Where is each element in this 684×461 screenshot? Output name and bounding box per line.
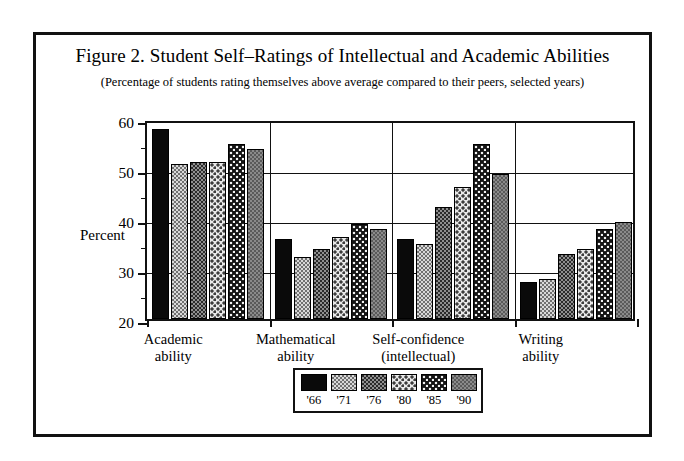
bar — [615, 222, 632, 320]
bar-group — [520, 123, 632, 319]
legend-item[interactable]: '85 — [421, 374, 447, 408]
bar — [294, 257, 311, 320]
y-axis-tick — [138, 123, 147, 125]
gridline-vertical — [392, 123, 393, 319]
bar — [171, 164, 188, 319]
y-axis-tick — [138, 223, 147, 225]
y-axis-minor-tick — [141, 198, 147, 199]
bar — [247, 149, 264, 319]
y-axis-minor-tick — [141, 148, 147, 149]
bar — [558, 254, 575, 319]
legend-label: '90 — [451, 393, 477, 408]
legend-swatch — [331, 374, 357, 391]
legend-label: '66 — [301, 393, 327, 408]
y-axis-tick — [138, 323, 147, 325]
figure-frame: Figure 2. Student Self–Ratings of Intell… — [33, 32, 652, 437]
y-axis-tick-label: 40 — [119, 214, 135, 232]
gridline-vertical — [515, 123, 516, 319]
legend-item[interactable]: '80 — [391, 374, 417, 408]
bar — [370, 229, 387, 319]
legend-swatch — [451, 374, 477, 391]
legend-item[interactable]: '76 — [361, 374, 387, 408]
bar — [313, 249, 330, 319]
legend-swatch — [421, 374, 447, 391]
legend-item[interactable]: '90 — [451, 374, 477, 408]
figure-subtitle: (Percentage of students rating themselve… — [36, 75, 649, 90]
legend-label: '85 — [421, 393, 447, 408]
bar — [228, 144, 245, 319]
x-axis-category-line: Writing — [466, 331, 616, 348]
bar — [332, 237, 349, 320]
legend-swatch — [361, 374, 387, 391]
x-axis-tick — [147, 319, 149, 327]
bar — [520, 282, 537, 320]
legend-item[interactable]: '66 — [301, 374, 327, 408]
x-axis-category-line: ability — [466, 348, 616, 365]
bar — [275, 239, 292, 319]
y-axis-minor-tick — [141, 298, 147, 299]
legend-label: '76 — [361, 393, 387, 408]
y-axis-tick-label: 30 — [119, 264, 135, 282]
bar — [492, 174, 509, 319]
bar — [596, 229, 613, 319]
y-axis-tick — [138, 273, 147, 275]
bar — [190, 162, 207, 320]
bar — [209, 162, 226, 320]
y-axis-tick-label: 50 — [119, 164, 135, 182]
legend: '66'71'76'80'85'90 — [293, 368, 483, 413]
figure-title: Figure 2. Student Self–Ratings of Intell… — [36, 45, 649, 67]
legend-label: '80 — [391, 393, 417, 408]
bar — [397, 239, 414, 319]
y-axis-minor-tick — [141, 248, 147, 249]
x-axis-category-label: Writingability — [466, 331, 616, 365]
bar — [351, 224, 368, 319]
gridline-vertical — [270, 123, 271, 319]
bar — [152, 129, 169, 319]
bar-group — [275, 123, 387, 319]
legend-item[interactable]: '71 — [331, 374, 357, 408]
y-axis-tick — [138, 173, 147, 175]
bar-group — [152, 123, 264, 319]
legend-swatch — [391, 374, 417, 391]
legend-label: '71 — [331, 393, 357, 408]
x-axis-tick — [392, 319, 394, 327]
bar — [416, 244, 433, 319]
legend-swatch — [301, 374, 327, 391]
y-axis-tick-label: 60 — [119, 114, 135, 132]
x-axis-tick — [637, 319, 639, 327]
bar — [539, 279, 556, 319]
x-axis-tick — [515, 319, 517, 327]
bar — [473, 144, 490, 319]
bar — [577, 249, 594, 319]
x-axis-tick — [270, 319, 272, 327]
bar-group — [397, 123, 509, 319]
y-axis-tick-label: 20 — [119, 314, 135, 332]
plot-area: 2030405060 — [145, 121, 635, 321]
bar — [454, 187, 471, 320]
bar — [435, 207, 452, 320]
